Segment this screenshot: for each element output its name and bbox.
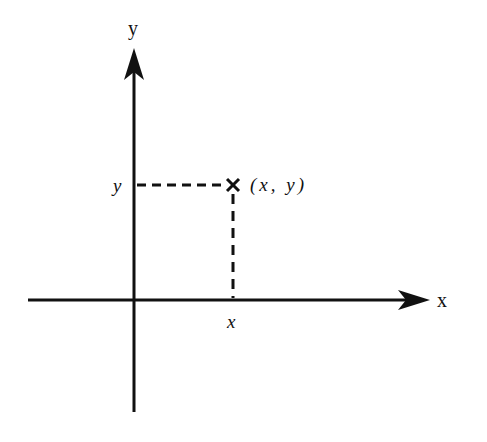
point-cross-marker	[227, 179, 239, 191]
coordinate-diagram: y x y x (x, y)	[0, 0, 487, 442]
y-axis-label: y	[128, 18, 138, 38]
point-coordinate-label: (x, y)	[250, 175, 307, 194]
x-tick-label: x	[227, 312, 235, 331]
y-tick-label: y	[113, 176, 121, 195]
x-axis-label: x	[437, 290, 447, 310]
diagram-graphics	[0, 0, 487, 442]
